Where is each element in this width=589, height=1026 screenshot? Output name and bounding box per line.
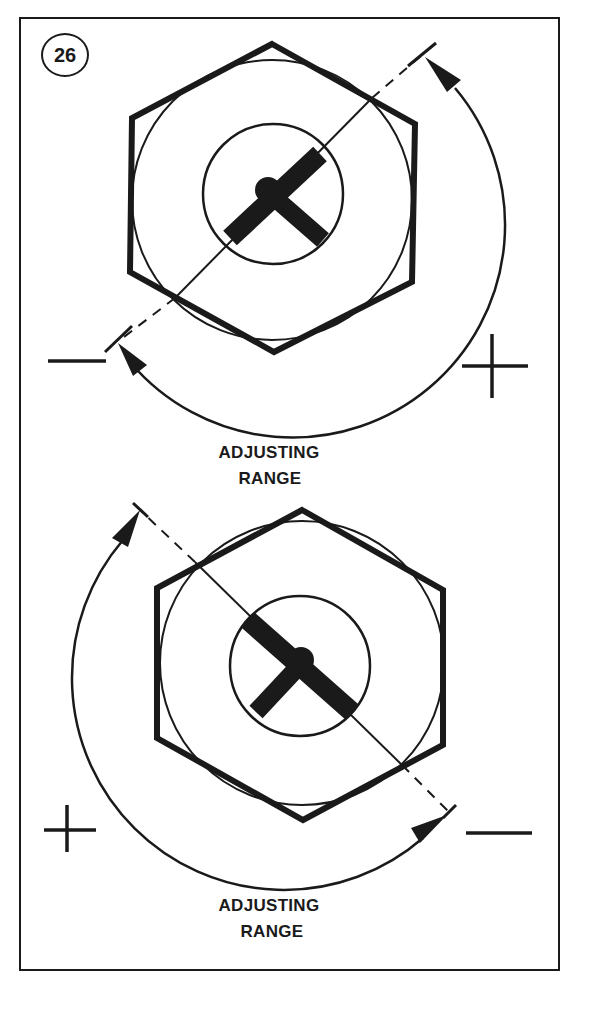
top-slot-hub xyxy=(255,177,281,203)
top-plus-sign-icon xyxy=(462,334,528,398)
top-range-label-line1: ADJUSTING xyxy=(169,440,369,466)
bottom-plus-sign-icon xyxy=(44,805,96,852)
bottom-range-arc xyxy=(72,540,423,890)
bottom-reference-line-dashed-lower xyxy=(402,765,450,813)
top-range-label-line2: RANGE xyxy=(170,466,370,492)
bottom-range-label-line2: RANGE xyxy=(172,919,372,945)
bottom-arrowhead-lower xyxy=(411,815,447,843)
bottom-slot-hub xyxy=(288,647,314,673)
adjusting-range-figure: 26 xyxy=(0,0,589,1026)
diagram-drawing xyxy=(0,0,589,1026)
top-reference-line-dashed-lower xyxy=(120,298,175,340)
bottom-range-label-line1: ADJUSTING xyxy=(169,893,369,919)
top-adjusting-screw xyxy=(48,43,528,438)
top-arrowhead-upper xyxy=(425,57,461,92)
bottom-adjusting-screw xyxy=(44,503,532,890)
top-arrowhead-lower xyxy=(118,343,147,376)
bottom-arrowhead-upper xyxy=(112,510,140,547)
bottom-slot-stem xyxy=(256,665,300,712)
bottom-reference-line-dashed-upper xyxy=(140,510,195,562)
top-tick-lower xyxy=(105,326,132,352)
